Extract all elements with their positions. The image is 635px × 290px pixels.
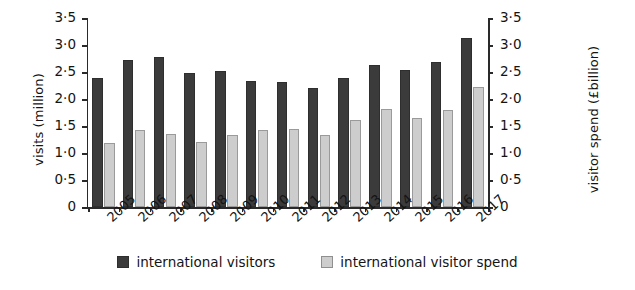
bar-international-visitors xyxy=(246,81,257,207)
y-axis-right-tick xyxy=(488,72,493,74)
bar-international-visitors xyxy=(123,60,134,207)
bar-international-visitor-spend xyxy=(196,142,207,207)
y-axis-right-tick-label: 1·5 xyxy=(500,119,521,133)
bar-international-visitor-spend xyxy=(320,135,331,207)
bars-layer xyxy=(88,18,488,207)
bar-international-visitor-spend xyxy=(166,134,177,207)
bar-international-visitors xyxy=(308,88,319,207)
y-axis-right-tick xyxy=(488,18,493,20)
bar-international-visitor-spend xyxy=(381,109,392,207)
y-axis-left-tick xyxy=(82,99,87,101)
bar-group xyxy=(334,18,365,207)
legend-swatch-spend-icon xyxy=(321,256,333,268)
bar-international-visitor-spend xyxy=(412,118,423,207)
y-axis-left-tick-label: 2·5 xyxy=(16,65,76,79)
bar-international-visitors xyxy=(184,73,195,207)
bar-international-visitor-spend xyxy=(104,143,115,207)
bar-group xyxy=(180,18,211,207)
bar-group xyxy=(396,18,427,207)
y-axis-right-tick-label: 0·5 xyxy=(500,173,521,187)
bar-group xyxy=(365,18,396,207)
y-axis-right-tick xyxy=(488,45,493,47)
y-axis-right-tick-label: 2·5 xyxy=(500,65,521,79)
bar-international-visitors xyxy=(215,71,226,207)
bar-group xyxy=(150,18,181,207)
bar-international-visitors xyxy=(461,38,472,207)
y-axis-left-tick xyxy=(82,126,87,128)
y-axis-left-tick-label: 3·0 xyxy=(16,38,76,52)
y-axis-left-tick-label: 1·5 xyxy=(16,119,76,133)
y-axis-right-tick xyxy=(488,126,493,128)
y-axis-right-tick-label: 3·5 xyxy=(500,11,521,25)
legend-swatch-visitors-icon xyxy=(117,256,129,268)
bar-group xyxy=(88,18,119,207)
y-axis-left-tick xyxy=(82,207,87,209)
y-axis-right-tick xyxy=(488,99,493,101)
y-axis-left-tick xyxy=(82,18,87,20)
y-axis-right-title: visitor spend (£billion) xyxy=(586,30,601,210)
y-axis-left-tick xyxy=(82,72,87,74)
y-axis-right-tick-label: 2·0 xyxy=(500,92,521,106)
bar-international-visitors xyxy=(431,62,442,207)
plot-area: 3·53·02·52·01·51·00·50 3·53·02·52·01·51·… xyxy=(88,18,488,207)
bar-international-visitor-spend xyxy=(350,120,361,207)
legend-item: international visitor spend xyxy=(321,254,517,270)
y-axis-left-tick xyxy=(82,180,87,182)
bar-group xyxy=(457,18,488,207)
y-axis-left-tick-label: 1·0 xyxy=(16,146,76,160)
legend-item: international visitors xyxy=(117,254,275,270)
bar-group xyxy=(273,18,304,207)
x-axis-tick xyxy=(88,207,90,212)
bar-group xyxy=(303,18,334,207)
bar-international-visitor-spend xyxy=(473,87,484,207)
bar-group xyxy=(242,18,273,207)
y-axis-left-tick-label: 0·5 xyxy=(16,173,76,187)
y-axis-left-tick xyxy=(82,45,87,47)
y-axis-left-tick-label: 3·5 xyxy=(16,11,76,25)
bar-international-visitors xyxy=(338,78,349,207)
y-axis-right-tick-label: 1·0 xyxy=(500,146,521,160)
legend-label: international visitors xyxy=(136,254,275,270)
bar-group xyxy=(211,18,242,207)
bar-international-visitor-spend xyxy=(258,130,269,207)
chart-figure: visits (million) visitor spend (£billion… xyxy=(0,0,635,290)
bar-international-visitors xyxy=(92,78,103,207)
legend-label: international visitor spend xyxy=(340,254,517,270)
bar-international-visitor-spend xyxy=(135,130,146,207)
bar-international-visitor-spend xyxy=(289,129,300,207)
bar-international-visitor-spend xyxy=(443,110,454,207)
bar-group xyxy=(426,18,457,207)
bar-international-visitors xyxy=(277,82,288,207)
bar-international-visitors xyxy=(400,70,411,207)
y-axis-right-tick xyxy=(488,180,493,182)
y-axis-left-tick-label: 2·0 xyxy=(16,92,76,106)
y-axis-left-tick xyxy=(82,153,87,155)
chart-legend: international visitorsinternational visi… xyxy=(0,254,635,270)
bar-international-visitor-spend xyxy=(227,135,238,207)
y-axis-right-tick xyxy=(488,153,493,155)
y-axis-left-tick-label: 0 xyxy=(16,200,76,214)
bar-international-visitors xyxy=(369,65,380,207)
y-axis-right-tick-label: 3·0 xyxy=(500,38,521,52)
bar-international-visitors xyxy=(154,57,165,207)
bar-group xyxy=(119,18,150,207)
